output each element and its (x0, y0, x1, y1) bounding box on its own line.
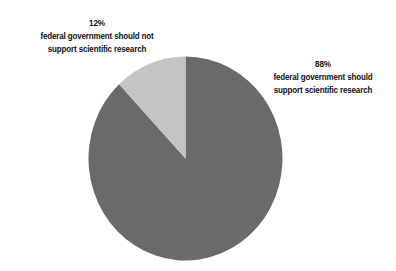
pie-label-not-support-line1: federal government should not (12, 30, 181, 43)
pie-label-support-percent: 88% (255, 58, 391, 71)
pie-chart-figure: 12% federal government should not suppor… (0, 0, 396, 271)
pie-label-support-line1: federal government should (255, 71, 391, 84)
pie-label-not-support-line2: support scientific research (12, 43, 181, 56)
pie-label-not-support: 12% federal government should not suppor… (12, 17, 181, 55)
pie-label-support-line2: support scientific research (255, 84, 391, 97)
pie-label-not-support-percent: 12% (12, 17, 181, 30)
pie-label-support: 88% federal government should support sc… (255, 58, 391, 96)
pie-slice-support[interactable] (89, 57, 283, 261)
